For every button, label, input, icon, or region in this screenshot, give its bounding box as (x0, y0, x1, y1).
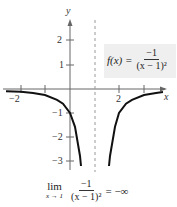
y-tick-label-neg2: −2 (52, 132, 63, 142)
limit-operator: lim x → 1 (46, 181, 63, 200)
limit-denominator: (x − 1)² (71, 191, 101, 203)
y-tick-label-neg1: −1 (52, 108, 63, 118)
chart-plot (0, 0, 177, 207)
limit-subscript: x → 1 (46, 192, 63, 200)
x-tick-label-2: 2 (116, 94, 121, 104)
limit-numerator: −1 (79, 178, 94, 191)
y-tick-label-neg3: −3 (52, 156, 63, 166)
y-axis-arrow-icon (68, 19, 73, 26)
function-lhs: f(x) = (107, 54, 132, 66)
y-tick-label-1: 1 (59, 60, 64, 70)
function-numerator: −1 (144, 47, 159, 60)
limit-expression: lim x → 1 −1 (x − 1)² = −∞ (46, 178, 128, 203)
y-tick-label-2: 2 (57, 35, 62, 45)
x-axis-label: x (164, 92, 168, 102)
function-fraction: −1 (x − 1)² (136, 47, 166, 72)
limit-word: lim (47, 181, 62, 192)
y-axis-label: y (66, 6, 70, 16)
limit-fraction: −1 (x − 1)² (71, 178, 101, 203)
function-denominator: (x − 1)² (136, 60, 166, 72)
function-formula: f(x) = −1 (x − 1)² (107, 47, 167, 72)
x-tick-label-neg2: −2 (9, 94, 20, 104)
limit-result: = −∞ (105, 185, 128, 197)
